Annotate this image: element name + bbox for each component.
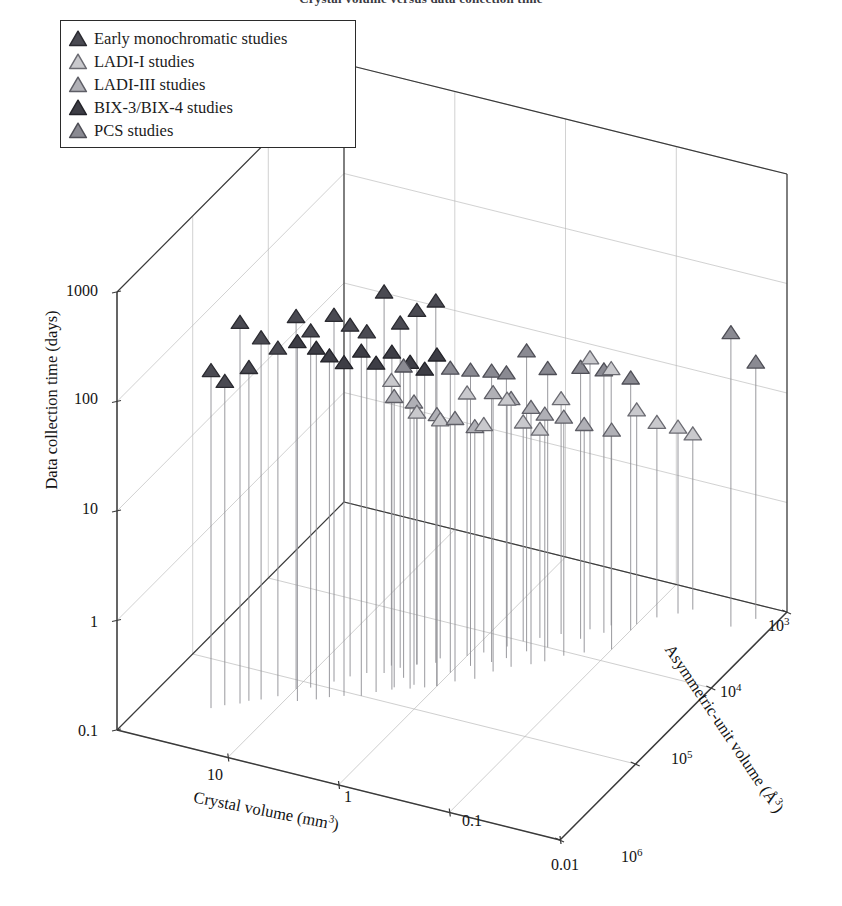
data-point-marker[interactable] xyxy=(446,411,464,424)
data-point-marker[interactable] xyxy=(458,386,476,399)
y-axis-tick-label: 105 xyxy=(671,748,693,768)
data-point-marker[interactable] xyxy=(484,386,502,399)
axis-frame-line xyxy=(117,502,344,730)
legend-triangle-icon xyxy=(67,121,89,140)
figure-canvas: Crystal volume versus data collection ti… xyxy=(0,0,842,906)
data-point-marker[interactable] xyxy=(308,341,326,354)
legend-item-label: LADI-I studies xyxy=(94,52,194,71)
x-axis-tick-mark xyxy=(339,781,340,789)
data-markers xyxy=(202,285,764,440)
y-axis-tick-exponent: 6 xyxy=(637,846,643,858)
legend-item[interactable]: LADI-I studies xyxy=(67,50,355,73)
y-axis-tick-exponent: 5 xyxy=(687,748,693,760)
y-axis-tick-label: 106 xyxy=(621,846,643,866)
data-point-marker[interactable] xyxy=(367,356,385,369)
y-axis-tick-label: 104 xyxy=(720,681,742,701)
data-point-marker[interactable] xyxy=(462,363,480,376)
y-axis-tick-label: 103 xyxy=(768,615,790,635)
data-point-marker[interactable] xyxy=(539,361,557,374)
data-point-marker[interactable] xyxy=(531,422,548,435)
x-axis-tick-label: 0.1 xyxy=(462,812,482,830)
data-point-marker[interactable] xyxy=(287,309,305,322)
x-axis-tick-mark xyxy=(449,809,450,817)
data-point-marker[interactable] xyxy=(358,325,375,338)
x-axis-tick-label: 1 xyxy=(344,788,352,806)
legend-box: Early monochromatic studiesLADI-I studie… xyxy=(60,20,356,148)
z-axis-tick-label: 0.1 xyxy=(10,722,98,740)
legend-item[interactable]: LADI-III studies xyxy=(67,73,355,96)
data-point-marker[interactable] xyxy=(252,331,270,344)
z-axis-tick-label: 1 xyxy=(10,613,98,631)
data-point-marker[interactable] xyxy=(747,355,765,368)
legend-item-label: PCS studies xyxy=(94,121,173,140)
x-axis-tick-label: 10 xyxy=(207,766,223,784)
data-point-marker[interactable] xyxy=(408,303,426,316)
data-point-marker[interactable] xyxy=(518,344,536,357)
legend-item[interactable]: BIX-3/BIX-4 studies xyxy=(67,96,355,119)
data-point-marker[interactable] xyxy=(442,361,460,374)
data-point-marker[interactable] xyxy=(240,360,257,373)
grid-line xyxy=(268,578,711,688)
data-point-marker[interactable] xyxy=(392,316,409,329)
legend-item[interactable]: Early monochromatic studies xyxy=(67,27,355,50)
data-point-marker[interactable] xyxy=(202,364,220,377)
data-point-marker[interactable] xyxy=(427,294,445,307)
data-point-marker[interactable] xyxy=(622,371,639,384)
data-point-marker[interactable] xyxy=(514,415,532,428)
legend-item-label: LADI-III studies xyxy=(94,75,205,94)
data-point-marker[interactable] xyxy=(428,348,446,361)
grid-line xyxy=(117,174,344,402)
data-point-marker[interactable] xyxy=(648,415,666,428)
data-point-marker[interactable] xyxy=(552,392,570,405)
data-point-marker[interactable] xyxy=(325,308,343,321)
data-point-marker[interactable] xyxy=(522,400,540,413)
legend-item[interactable]: PCS studies xyxy=(67,119,355,142)
grid-line xyxy=(228,530,455,758)
x-axis-tick-mark xyxy=(228,754,229,762)
legend-triangle-icon xyxy=(67,98,89,117)
data-point-marker[interactable] xyxy=(581,351,599,364)
legend-item-label: Early monochromatic studies xyxy=(94,29,287,48)
data-point-marker[interactable] xyxy=(231,315,249,328)
z-axis-tick-label: 10 xyxy=(10,500,98,518)
data-point-marker[interactable] xyxy=(498,366,515,379)
data-point-marker[interactable] xyxy=(302,324,320,337)
z-axis-tick-label: 1000 xyxy=(10,282,98,300)
data-point-marker[interactable] xyxy=(383,373,401,386)
y-axis-tick-exponent: 4 xyxy=(736,681,742,693)
y-axis-tick-base: 10 xyxy=(671,750,687,767)
data-point-marker[interactable] xyxy=(722,326,740,339)
y-axis-tick-base: 10 xyxy=(768,617,784,634)
data-point-marker[interactable] xyxy=(555,410,573,423)
data-point-marker[interactable] xyxy=(483,364,501,377)
grid-line xyxy=(117,283,344,511)
legend-triangle-icon xyxy=(67,52,89,71)
data-point-marker[interactable] xyxy=(669,420,687,433)
data-point-marker[interactable] xyxy=(353,344,371,357)
y-axis-tick-base: 10 xyxy=(720,683,736,700)
grid-line xyxy=(117,393,344,621)
legend-triangle-icon xyxy=(67,75,89,94)
y-axis-tick-exponent: 3 xyxy=(784,615,790,627)
data-point-marker[interactable] xyxy=(383,345,401,358)
x-axis-tick-label: 0.01 xyxy=(551,856,579,874)
y-axis-tick-base: 10 xyxy=(621,848,637,865)
data-point-marker[interactable] xyxy=(603,423,621,436)
y-axis-tick-mark xyxy=(555,838,564,842)
data-point-marker[interactable] xyxy=(405,395,423,408)
legend-triangle-icon xyxy=(67,29,89,48)
legend-item-label: BIX-3/BIX-4 studies xyxy=(94,98,233,117)
z-axis-tick-label: 100 xyxy=(10,390,98,408)
